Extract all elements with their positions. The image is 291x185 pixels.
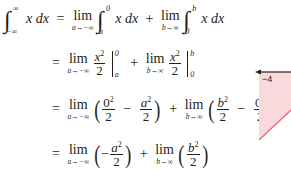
limit: lima→−∞ — [67, 98, 89, 121]
equation-line-4: = lima→−∞ (−a22) + limb→∞ (b22) — [48, 141, 209, 168]
fraction: x22 — [169, 50, 181, 77]
integral-sign: ∫0a — [97, 8, 104, 32]
axis-tick-label: −4 — [262, 74, 272, 84]
graph-fragment: −4 — [255, 60, 291, 140]
equation-line-3: = lima→−∞ (022 − a22) + limb→∞ (b22 − 02… — [48, 96, 276, 123]
equation-line-1: ∫∞−∞ x dx = lima→−∞ ∫0a x dx + limb→∞ ∫b… — [4, 8, 224, 32]
fraction: 022 — [102, 96, 115, 123]
integral-sign: ∫b0 — [183, 8, 190, 32]
fraction: a22 — [110, 141, 123, 168]
limit: lima→−∞ — [72, 9, 94, 32]
equation-line-2: = lima→−∞ x22 0a + limb→∞ x22 b0 — [48, 50, 198, 77]
limit: limb→∞ — [146, 52, 165, 75]
fraction: b22 — [217, 96, 230, 123]
fraction: b22 — [187, 141, 200, 168]
integrand: x dx — [26, 11, 49, 26]
fraction: a22 — [140, 96, 153, 123]
limit: lima→−∞ — [67, 52, 89, 75]
evaluation-bar: 0a — [112, 51, 123, 77]
limit: limb→∞ — [185, 98, 204, 121]
arrow-left-icon — [255, 70, 261, 75]
limit: limb→∞ — [161, 9, 180, 32]
fraction: x22 — [94, 50, 106, 77]
integral-sign: ∫∞−∞ — [4, 8, 11, 32]
limit: limb→∞ — [155, 143, 174, 166]
limit: lima→−∞ — [67, 143, 89, 166]
shaded-region-graph — [255, 60, 291, 140]
evaluation-bar: b0 — [187, 51, 198, 77]
